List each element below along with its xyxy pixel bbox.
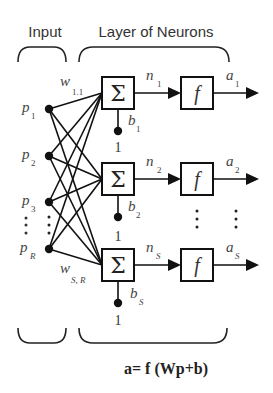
net-input-sub: S [156,251,161,261]
arrow-head-icon [168,87,181,99]
input-dot [45,245,53,253]
arrow-head-icon [246,173,259,185]
sigma-symbol: Σ [110,167,126,192]
input-dot [45,198,53,206]
bias-input-label: 1 [115,313,122,328]
output-label: a [226,239,234,255]
neuron-2: 1 b 2 Σ n 2 f a 2 [102,153,259,244]
input-node-R: p R [19,239,53,261]
net-input-label: n [146,67,154,83]
neuron-layer-diagram: Input Layer of Neurons p 1 p 2 p 3 [0,0,273,393]
bias-dot [114,127,122,135]
weight-sub-first: 1.1 [72,87,83,97]
input-node-2: p 2 [21,146,53,168]
arrow-head-icon [246,259,259,271]
output-ellipsis [196,210,238,229]
output-sub: S [235,251,240,261]
bias-label: b [128,198,136,214]
sigma-symbol: Σ [110,81,126,106]
bias-label: b [128,112,136,128]
layer-header: Layer of Neurons [98,23,213,40]
input-sub: 1 [31,111,36,121]
input-node-3: p 3 [21,192,53,214]
layer-brace-top [79,47,229,62]
input-brace-top [18,47,66,62]
output-label: a [226,67,234,83]
input-label: p [21,99,30,115]
net-input-label: n [146,239,154,255]
input-node-1: p 1 [21,99,53,121]
weight-label-last: w [60,260,70,276]
input-dot [45,105,53,113]
input-sub: 3 [31,204,36,214]
weight-sub-last: S, R [71,275,86,285]
input-dot [45,152,53,160]
bias-label: b [130,285,138,301]
input-ellipsis [25,216,51,235]
output-label: a [226,153,234,169]
net-input-label: n [146,153,154,169]
arrow-head-icon [246,87,259,99]
output-sub: 1 [235,79,240,89]
arrow-head-icon [168,259,181,271]
input-header: Input [28,23,62,40]
weight-connections [49,93,102,265]
input-brace-bottom [18,328,66,343]
input-label: p [19,239,28,255]
bias-sub: 2 [136,210,141,220]
neuron-1: 1 b 1 Σ n 1 f a 1 [102,67,259,155]
output-sub: 2 [235,165,240,175]
input-sub: 2 [31,158,36,168]
layer-formula: a= f (Wp+b) [124,360,208,378]
weight-label-first: w [60,73,70,89]
bias-sub: 1 [136,124,141,134]
input-label: p [21,192,30,208]
neuron-S: 1 b S Σ n S f a S [102,239,259,328]
input-label: p [21,146,30,162]
bias-dot [114,213,122,221]
bias-input-label: 1 [115,229,122,244]
layer-brace-bottom [79,328,227,343]
net-input-sub: 2 [157,165,162,175]
bias-sub: S [139,297,144,307]
net-input-sub: 1 [157,79,162,89]
bias-input-label: 1 [115,140,122,155]
sigma-symbol: Σ [110,253,126,278]
input-sub: R [29,251,36,261]
bias-dot [114,299,122,307]
arrow-head-icon [168,173,181,185]
